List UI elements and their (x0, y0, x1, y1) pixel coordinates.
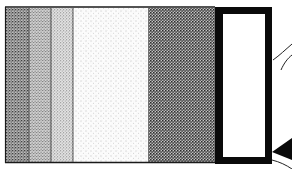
black-wedge-icon (272, 138, 292, 160)
black-frame (215, 7, 272, 164)
lower-curve-icon (272, 160, 292, 169)
lead-line-curve-2-icon (281, 55, 292, 70)
stipple-layer (0, 0, 292, 169)
figure-canvas (0, 0, 292, 169)
